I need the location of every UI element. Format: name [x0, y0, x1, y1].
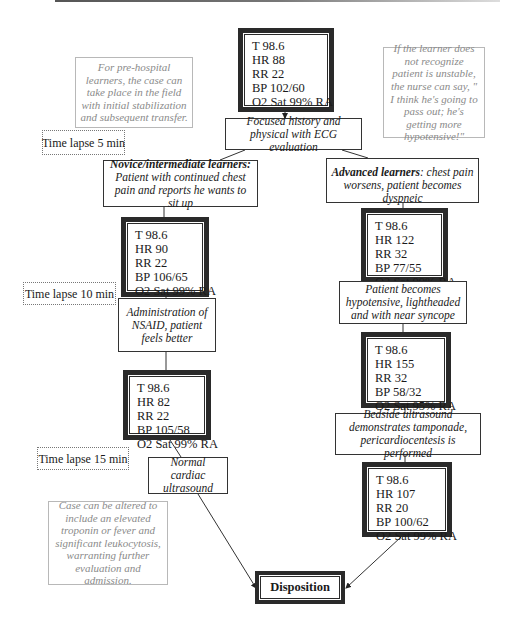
note-nurse-prompt-text: If the learner does not recognize patien…	[388, 42, 480, 143]
vitals-bp: BP 58/32	[375, 385, 446, 399]
novice-body: Patient with continued chest pain and re…	[108, 171, 253, 210]
vitals-hr: HR 90	[135, 242, 204, 256]
vitals-bp: BP 105/58	[137, 423, 206, 437]
vitals-temp: T 98.6	[375, 343, 446, 357]
step-hypotensive: Patient becomes hypotensive, lightheaded…	[339, 281, 467, 324]
vitals-hr: HR 155	[375, 357, 446, 371]
step-disposition: Disposition	[255, 571, 345, 604]
note-case-alteration: Case can be altered to include an elevat…	[48, 501, 168, 585]
vitals-bp: BP 77/55	[375, 261, 443, 275]
vitals-temp: T 98.6	[135, 228, 204, 242]
vitals-hr: HR 82	[137, 395, 206, 409]
vitals-box-advanced-3: T 98.6 HR 107 RR 20 BP 100/62 O2 Sat 99%…	[362, 462, 452, 537]
note-nurse-prompt: If the learner does not recognize patien…	[383, 47, 485, 138]
step-focused-history-text: Focused history and physical with ECG ev…	[230, 115, 357, 154]
vitals-hr: HR 88	[252, 53, 329, 67]
vitals-temp: T 98.6	[137, 381, 206, 395]
step-focused-history: Focused history and physical with ECG ev…	[225, 118, 362, 150]
vitals-hr: HR 122	[375, 233, 443, 247]
time-lapse-10-text: Time lapse 10 min	[25, 287, 114, 301]
vitals-temp: T 98.6	[375, 219, 443, 233]
time-lapse-15-text: Time lapse 15 min	[38, 452, 127, 466]
advanced-heading: Advanced learners	[331, 166, 419, 178]
step-nsaid-text: Administration of NSAID, patient feels b…	[123, 306, 211, 345]
vitals-box-advanced-2: T 98.6 HR 155 RR 32 BP 58/32 O2 Sat 95% …	[361, 332, 451, 408]
vitals-o2: O2 Sat 99% RA	[135, 284, 204, 298]
novice-heading: Novice/intermediate learners:	[110, 158, 251, 171]
step-normal-ultrasound-text: Normal cardiac ultrasound	[153, 456, 223, 495]
time-lapse-5: Time lapse 5 min	[42, 130, 125, 155]
vitals-box-novice-2: T 98.6 HR 82 RR 22 BP 105/58 O2 Sat 99% …	[123, 370, 211, 440]
vitals-rr: RR 22	[135, 256, 204, 270]
vitals-hr: HR 107	[376, 487, 447, 501]
vitals-rr: RR 32	[375, 247, 443, 261]
vitals-o2: O2 Sat 99% RA	[376, 529, 447, 543]
vitals-bp: BP 100/62	[376, 515, 447, 529]
step-disposition-text: Disposition	[270, 580, 330, 595]
vitals-box-novice-1: T 98.6 HR 90 RR 22 BP 106/65 O2 Sat 99% …	[121, 217, 209, 297]
note-prehospital-text: For pre-hospital learners, the case can …	[80, 61, 188, 124]
vitals-bp: BP 106/65	[135, 270, 204, 284]
time-lapse-15: Time lapse 15 min	[37, 447, 129, 470]
vitals-rr: RR 20	[376, 501, 447, 515]
step-normal-ultrasound: Normal cardiac ultrasound	[148, 457, 228, 494]
vitals-rr: RR 32	[375, 371, 446, 385]
vitals-o2: O2 Sat 99% RA	[252, 95, 329, 109]
time-lapse-10: Time lapse 10 min	[23, 282, 116, 305]
step-nsaid: Administration of NSAID, patient feels b…	[118, 298, 216, 352]
vitals-bp: BP 102/60	[252, 81, 329, 95]
vitals-box-initial: T 98.6 HR 88 RR 22 BP 102/60 O2 Sat 99% …	[238, 28, 334, 112]
vitals-rr: RR 22	[252, 67, 329, 81]
vitals-temp: T 98.6	[376, 473, 447, 487]
step-bedside-ultrasound: Bedside ultrasound demonstrates tamponad…	[335, 413, 481, 455]
step-advanced-learners: Advanced learners: chest pain worsens, p…	[326, 158, 479, 203]
time-lapse-5-text: Time lapse 5 min	[42, 136, 125, 150]
note-case-alteration-text: Case can be altered to include an elevat…	[53, 499, 163, 587]
vitals-o2: O2 Sat 99% RA	[137, 437, 206, 451]
note-prehospital: For pre-hospital learners, the case can …	[75, 57, 193, 128]
step-bedside-ultrasound-text: Bedside ultrasound demonstrates tamponad…	[340, 408, 476, 460]
step-novice-learners: Novice/intermediate learners: Patient wi…	[103, 160, 258, 207]
vitals-temp: T 98.6	[252, 39, 329, 53]
vitals-rr: RR 22	[137, 409, 206, 423]
step-hypotensive-text: Patient becomes hypotensive, lightheaded…	[344, 283, 462, 322]
vitals-box-advanced-1: T 98.6 HR 122 RR 32 BP 77/55 O2 Sat 99% …	[361, 208, 448, 282]
